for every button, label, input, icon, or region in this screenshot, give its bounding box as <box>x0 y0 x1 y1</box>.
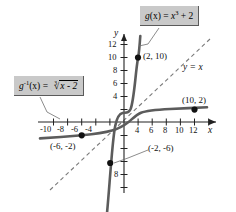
y-tick-label-6: 6 <box>113 79 117 88</box>
callout-g-expr-exponent: 3 <box>175 9 178 16</box>
y-tick-label-10: 10 <box>108 53 117 62</box>
y-tick-label-neg8: 8 <box>114 170 118 179</box>
leader-line-point-neg2-neg6 <box>114 150 148 163</box>
x-tick-label-6: 6 <box>149 126 153 135</box>
callout-ginv-radicand: x - 2 <box>60 81 77 91</box>
point-label-10-2: (10, 2) <box>182 96 206 105</box>
callout-g-function: g(x) = x3 + 2 <box>140 6 199 26</box>
point-marker <box>107 160 113 166</box>
y-tick-label-8: 8 <box>113 66 117 75</box>
x-tick-label-4: 4 <box>135 126 139 135</box>
callout-ginv-root-index: 3 <box>54 80 57 86</box>
x-tick-label-12: 12 <box>189 126 198 135</box>
point-marker <box>135 54 141 60</box>
point-label-neg2-neg6: (-2, -6) <box>148 144 174 153</box>
y-tick-label-12: 12 <box>108 40 117 49</box>
y-tick-label-4: 4 <box>113 92 117 101</box>
callout-g-expr-rest: + 2 <box>181 11 193 21</box>
x-tick-label-10: 10 <box>175 126 184 135</box>
y-axis-arrowhead <box>121 34 127 41</box>
leader-line-g-inverse-label <box>40 97 60 119</box>
x-axis-label: x <box>208 126 212 136</box>
point-label-neg6-neg2: (-6, -2) <box>50 142 76 151</box>
point-label-2-10: (2, 10) <box>143 52 167 61</box>
x-tick-label-neg10: -10 <box>40 125 51 134</box>
math-figure: -10 -8 -6 -4 4 6 8 10 12 x y 12 10 8 6 4… <box>0 0 236 212</box>
point-marker <box>191 107 197 113</box>
callout-g-inverse-function: g-1(x) = 3√x - 2 <box>14 76 84 96</box>
callout-g-arg: (x) <box>150 11 161 21</box>
x-tick-label-neg6: -6 <box>71 125 78 134</box>
callout-ginv-equals: = <box>43 81 48 91</box>
leader-line-g-label <box>139 28 159 46</box>
x-tick-label-neg8: -8 <box>57 125 64 134</box>
y-axis-label: y <box>114 29 118 39</box>
x-tick-label-neg4: -4 <box>85 125 92 134</box>
identity-line-label: y = x <box>183 63 203 73</box>
x-tick-label-8: 8 <box>163 126 167 135</box>
callout-g-equals: = <box>163 11 168 21</box>
callout-ginv-arg: (x) <box>29 81 40 91</box>
point-marker <box>79 132 85 138</box>
cube-root-icon: 3√x - 2 <box>50 80 78 91</box>
